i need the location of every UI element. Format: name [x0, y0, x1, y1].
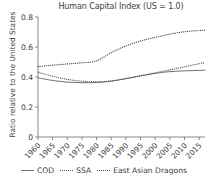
x-tick-group: 1960196519701975198019851990199520002005… [23, 137, 204, 161]
y-tick-label: 0.4 [21, 73, 33, 82]
legend-label: East Asian Dragons [113, 166, 187, 175]
y-tick-label: 0.6 [21, 43, 33, 52]
legend-swatch-icon [97, 170, 110, 171]
y-tick-group: 00.20.40.60.8 [21, 13, 38, 142]
series-line-ssa [38, 62, 205, 81]
series-group [38, 30, 205, 83]
x-tick-label: 2015 [184, 141, 204, 161]
legend-label: SSA [76, 166, 91, 175]
legend-label: COD [37, 166, 54, 175]
legend-entry-east-asian-dragons[interactable]: East Asian Dragons [97, 166, 187, 175]
legend-swatch-icon [21, 170, 34, 171]
y-tick-label: 0.8 [21, 13, 33, 22]
legend-entry-cod[interactable]: COD [21, 166, 54, 175]
series-line-cod [38, 70, 205, 83]
chart-legend: CODSSAEast Asian Dragons [0, 166, 208, 175]
legend-entry-ssa[interactable]: SSA [60, 166, 91, 175]
chart-figure: Human Capital Index (US = 1.0) Ratio rel… [0, 0, 208, 186]
series-line-east-asian-dragons [38, 30, 205, 66]
x-axis: 1960196519701975198019851990199520002005… [23, 137, 205, 161]
y-tick-label: 0 [28, 133, 33, 142]
y-axis: 00.20.40.60.8 [21, 13, 38, 142]
legend-swatch-icon [60, 170, 73, 171]
plot-area: 00.20.40.60.8 19601965197019751980198519… [0, 0, 208, 186]
y-tick-label: 0.2 [21, 103, 33, 112]
